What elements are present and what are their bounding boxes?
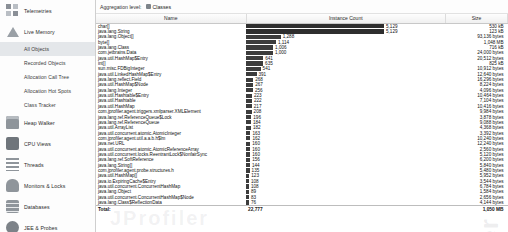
sidebar-group-label: Live Memory xyxy=(24,29,55,35)
column-header-size[interactable]: Size xyxy=(446,14,508,23)
sidebar-item-label: Class Tracker xyxy=(24,102,56,108)
total-count: 22,777 xyxy=(246,206,446,213)
sidebar-group-monitors-locks[interactable]: Monitors & Locks xyxy=(0,175,95,196)
total-size: 1,050 MB xyxy=(446,206,508,213)
instance-count-bar xyxy=(246,67,261,71)
toolbar: Aggregation level: Classes xyxy=(96,0,508,14)
instance-count-bar xyxy=(246,163,250,167)
aggregation-label: Aggregation level: xyxy=(100,4,142,10)
sidebar-group-telemetries[interactable]: Telemetries xyxy=(0,0,95,21)
lock-icon xyxy=(6,179,19,192)
instance-count-bar xyxy=(246,115,251,119)
instance-count-bar xyxy=(246,200,249,204)
sidebar: TelemetriesLive MemoryAll ObjectsRecorde… xyxy=(0,0,96,232)
sidebar-group-databases[interactable]: Databases xyxy=(0,196,95,217)
instance-count-bar xyxy=(246,168,250,172)
sidebar-item-allocation-call-tree[interactable]: Allocation Call Tree xyxy=(0,70,95,84)
sidebar-group-live-memory[interactable]: Live Memory xyxy=(0,21,95,42)
sidebar-group-label: Threads xyxy=(24,162,44,168)
threads-icon xyxy=(6,158,19,171)
instance-count-bar xyxy=(246,56,263,60)
instance-count-bar xyxy=(246,78,253,82)
instance-count-bar xyxy=(246,51,273,55)
sidebar-group-label: JEE & Probes xyxy=(24,225,58,231)
sidebar-group-label: Telemetries xyxy=(24,8,52,14)
sidebar-item-recorded-objects[interactable]: Recorded Objects xyxy=(0,56,95,70)
instance-count-bar xyxy=(246,99,252,103)
instance-count-bar xyxy=(246,61,263,65)
jee-icon xyxy=(6,221,19,232)
column-header-count[interactable]: Instance Count xyxy=(246,14,446,23)
all-objects-table: Name Instance Count Size char[]5,129530 … xyxy=(96,14,508,213)
sidebar-group-label: CPU Views xyxy=(24,141,51,147)
column-header-name[interactable]: Name xyxy=(96,14,246,23)
instance-count-bar xyxy=(246,174,249,178)
table-body: char[]5,129530 kBjava.lang.String5,12912… xyxy=(96,23,508,213)
sidebar-group-jee-probes[interactable]: JEE & Probes xyxy=(0,217,95,232)
instance-count-bar xyxy=(246,24,384,28)
instance-count-bar xyxy=(246,142,250,146)
sidebar-item-class-tracker[interactable]: Class Tracker xyxy=(0,98,95,112)
database-icon xyxy=(6,200,19,213)
instance-count-bar xyxy=(246,29,384,33)
instance-count-bar xyxy=(246,94,252,98)
instance-count-value: 76 xyxy=(251,200,256,205)
sidebar-group-label: Monitors & Locks xyxy=(24,183,65,189)
sidebar-item-label: Allocation Call Tree xyxy=(24,74,69,80)
aggregation-value: Classes xyxy=(153,4,171,10)
instance-count-bar xyxy=(246,120,251,124)
instance-count-bar xyxy=(246,131,250,135)
sidebar-item-allocation-hot-spots[interactable]: Allocation Hot Spots xyxy=(0,84,95,98)
triangle-icon xyxy=(7,27,19,37)
objects-table-wrapper[interactable]: Name Instance Count Size char[]5,129530 … xyxy=(96,14,508,232)
jprofiler-window: TelemetriesLive MemoryAll ObjectsRecorde… xyxy=(0,0,508,232)
table-header: Name Instance Count Size xyxy=(96,14,508,23)
instance-count-bar xyxy=(246,158,250,162)
instance-count-bar xyxy=(246,179,249,183)
instance-count-bar xyxy=(246,184,249,188)
sidebar-group-threads[interactable]: Threads xyxy=(0,154,95,175)
cpu-icon xyxy=(6,137,19,150)
instance-count-bar xyxy=(246,83,253,87)
sidebar-group-label: Heap Walker xyxy=(24,120,55,126)
sidebar-item-label: All Objects xyxy=(24,46,49,52)
instance-count-bar xyxy=(246,104,252,108)
sidebar-item-label: Recorded Objects xyxy=(24,60,66,66)
grid-icon xyxy=(6,4,19,17)
classes-icon xyxy=(146,4,151,9)
sidebar-group-label: Databases xyxy=(24,204,50,210)
instance-count-bar xyxy=(246,195,249,199)
instance-count-bar xyxy=(246,126,251,130)
instance-count-bar xyxy=(246,40,276,44)
instance-count-bar xyxy=(246,136,250,140)
aggregation-selector[interactable]: Classes xyxy=(146,4,171,10)
instance-count-bar xyxy=(246,45,273,49)
sidebar-group-cpu-views[interactable]: CPU Views xyxy=(0,133,95,154)
instance-count-bar xyxy=(246,35,281,39)
instance-count-bar xyxy=(246,88,253,92)
sidebar-item-all-objects[interactable]: All Objects xyxy=(0,42,95,56)
table-total-row: Total:22,7771,050 MB xyxy=(96,206,508,213)
instance-count-bar xyxy=(246,190,249,194)
instance-count-bar xyxy=(246,110,252,114)
watermark-vertical: JProfiler xyxy=(473,218,504,232)
main-panel: Aggregation level: Classes Name Instance… xyxy=(96,0,508,232)
instance-count-bar xyxy=(246,152,250,156)
instance-count-bar xyxy=(246,147,250,151)
sidebar-group-heap-walker[interactable]: Heap Walker xyxy=(0,112,95,133)
total-label: Total: xyxy=(96,206,246,213)
instance-count-bar xyxy=(246,72,257,76)
heap-icon xyxy=(6,116,19,129)
sidebar-item-label: Allocation Hot Spots xyxy=(24,88,71,94)
